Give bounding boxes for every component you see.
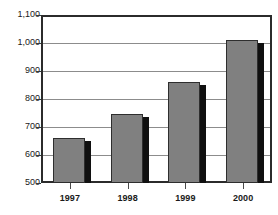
x-tick-mark-2000	[243, 183, 244, 189]
y-tick-label-1100: 1,100	[4, 10, 40, 19]
gridline-900	[43, 71, 270, 72]
y-tick-label-500: 500	[4, 178, 40, 187]
x-tick-label-2000: 2000	[213, 193, 273, 203]
y-tick-label-900: 900	[4, 66, 40, 75]
y-tick-mark-1000	[36, 43, 41, 44]
plot-area	[41, 15, 272, 183]
x-tick-label-1999: 1999	[155, 193, 215, 203]
gridline-600	[43, 155, 270, 156]
x-tick-mark-1999	[185, 183, 186, 189]
x-tick-mark-1997	[70, 183, 71, 189]
gridline-800	[43, 99, 270, 100]
y-tick-label-800: 800	[4, 94, 40, 103]
gridline-700	[43, 127, 270, 128]
y-tick-label-1000: 1,000	[4, 38, 40, 47]
y-tick-mark-700	[36, 127, 41, 128]
y-tick-mark-900	[36, 71, 41, 72]
y-tick-mark-1100	[36, 15, 41, 16]
bar-chart: 1,1001,000900800700600500 19971998199920…	[0, 0, 278, 215]
y-tick-mark-600	[36, 155, 41, 156]
x-tick-mark-1998	[128, 183, 129, 189]
y-tick-mark-800	[36, 99, 41, 100]
gridline-1000	[43, 43, 270, 44]
x-tick-label-1998: 1998	[98, 193, 158, 203]
y-tick-mark-500	[36, 183, 41, 184]
x-tick-label-1997: 1997	[40, 193, 100, 203]
y-tick-label-700: 700	[4, 122, 40, 131]
y-tick-label-600: 600	[4, 150, 40, 159]
